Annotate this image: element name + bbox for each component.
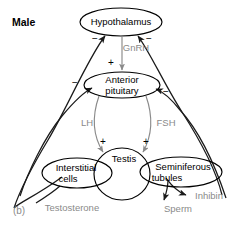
sperm-label: Sperm	[164, 203, 192, 214]
sign-lh-stimulates-interstitial: +	[100, 136, 106, 147]
hypothalamus-label: Hypothalamus	[91, 16, 152, 27]
interstitial-cells-label-line2: cells	[58, 173, 77, 184]
lh-label: LH	[81, 117, 93, 128]
testosterone-label: Testosterone	[45, 202, 99, 213]
sign-gnrh-stimulates-pituitary: +	[108, 57, 114, 68]
sign-testosterone-inhibits-hypothalamus: −	[92, 33, 98, 44]
sign-testosterone-inhibits-pituitary: −	[72, 77, 78, 88]
sign-inhibin-inhibits-pituitary: −	[163, 86, 169, 97]
figure-title: Male	[12, 16, 36, 28]
sign-fsh-stimulates-seminiferous: +	[143, 136, 149, 147]
sperm-output-arrow	[164, 180, 168, 200]
anterior-pituitary-label-line1: Anterior	[105, 74, 138, 85]
seminiferous-tubules-label-line2: tubules	[152, 172, 183, 183]
inhibin-label: Inhibin	[195, 190, 223, 201]
testis-label: Testis	[112, 153, 137, 164]
figure-panel: Hypothalamus Anterior pituitary Testis I…	[0, 0, 238, 226]
sign-inhibin-inhibits-hypothalamus: −	[146, 33, 152, 44]
panel-label: (b)	[13, 205, 25, 216]
hormone-axis-diagram: Hypothalamus Anterior pituitary Testis I…	[0, 0, 238, 226]
testosterone-to-pituitary-arrow	[20, 88, 92, 196]
fsh-label: FSH	[157, 117, 176, 128]
anterior-pituitary-label-line2: pituitary	[105, 85, 139, 96]
testosterone-secretion-path	[36, 186, 60, 203]
interstitial-cells-label-line1: Interstitial	[56, 162, 97, 173]
seminiferous-tubules-label-line1: Seminiferous	[155, 161, 211, 172]
